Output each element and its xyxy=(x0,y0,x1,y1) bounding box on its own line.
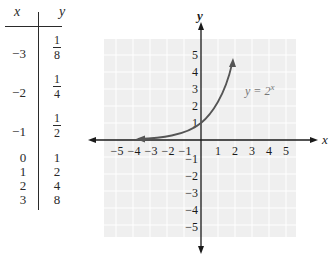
y-axis-down-arrow-icon xyxy=(198,246,204,254)
y-axis-label: y xyxy=(195,8,203,23)
y-tick-label: 3 xyxy=(192,82,198,96)
x-axis-right-arrow-icon xyxy=(310,137,318,143)
x-tick-label: 5 xyxy=(283,144,289,158)
y-tick-label: −1 xyxy=(185,152,198,166)
x-tick-label: −3 xyxy=(145,144,158,158)
y-tick-label: 5 xyxy=(192,48,198,62)
exponential-graph: x y −5 −4 −3 −2 −1 1 2 3 4 5 5 4 3 2 1 −… xyxy=(0,0,334,270)
curve-label-base: y = 2 xyxy=(244,84,270,98)
y-axis-up-arrow-icon xyxy=(198,22,204,30)
x-tick-label: −4 xyxy=(128,144,141,158)
x-tick-label: −5 xyxy=(111,144,124,158)
x-tick-label: 4 xyxy=(266,144,272,158)
y-tick-label: 2 xyxy=(192,99,198,113)
x-tick-label: 2 xyxy=(232,144,238,158)
x-tick-label: 1 xyxy=(215,144,221,158)
y-tick-label: 4 xyxy=(192,65,198,79)
y-tick-label: −3 xyxy=(185,186,198,200)
x-tick-label: −2 xyxy=(162,144,175,158)
y-tick-label: −5 xyxy=(185,220,198,234)
x-tick-label: 3 xyxy=(249,144,255,158)
y-tick-label: −4 xyxy=(185,203,198,217)
y-tick-label: −2 xyxy=(185,169,198,183)
curve-label: y = 2x xyxy=(244,82,274,98)
x-axis-label: x xyxy=(321,132,328,147)
curve-label-exponent: x xyxy=(269,82,274,92)
x-axis-left-arrow-icon xyxy=(88,137,96,143)
